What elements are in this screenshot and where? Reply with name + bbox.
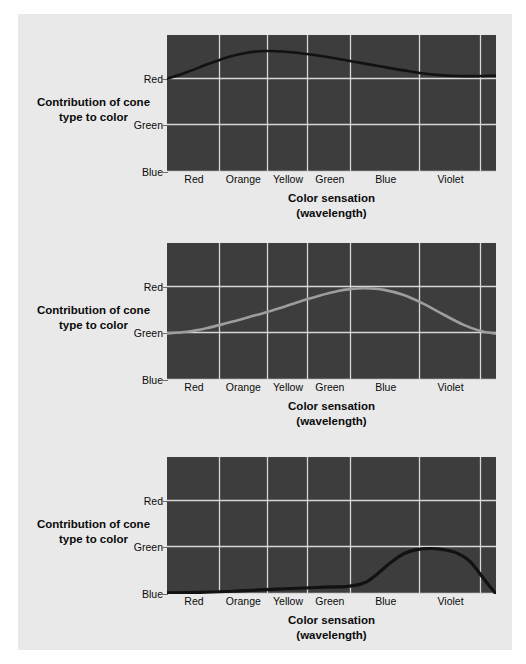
figure-panel: Contribution of cone type to color Red G… — [18, 14, 512, 650]
x-axis-title-line2: (wavelength) — [167, 414, 496, 429]
x-axis-title-line1: Color sensation — [167, 191, 496, 206]
x-axis-tick-labels: RedOrangeYellowGreenBlueViolet — [167, 382, 496, 396]
x-axis-title: Color sensation (wavelength) — [167, 191, 496, 221]
y-tick-label-blue: Blue — [142, 589, 163, 600]
x-tick-label-green: Green — [315, 596, 344, 607]
data-curve — [167, 549, 496, 594]
chart-panel-green-cone: Contribution of cone type to color Red G… — [18, 229, 512, 435]
x-tick-label-green: Green — [315, 382, 344, 393]
x-tick-label-violet: Violet — [438, 596, 464, 607]
y-tick-label-green: Green — [134, 542, 163, 553]
x-axis-title: Color sensation (wavelength) — [167, 399, 496, 429]
x-tick-label-orange: Orange — [226, 596, 261, 607]
y-tick-label-blue: Blue — [142, 375, 163, 386]
x-axis-title-line2: (wavelength) — [167, 206, 496, 221]
x-tick-label-red: Red — [184, 174, 203, 185]
x-axis-tick-labels: RedOrangeYellowGreenBlueViolet — [167, 596, 496, 610]
x-tick-label-blue: Blue — [375, 382, 396, 393]
x-tick-label-orange: Orange — [226, 382, 261, 393]
chart-panel-blue-cone: Contribution of cone type to color Red G… — [18, 443, 512, 649]
x-tick-label-violet: Violet — [438, 382, 464, 393]
data-curve — [167, 288, 496, 334]
x-axis-title-line2: (wavelength) — [167, 628, 496, 643]
x-axis-tick-labels: RedOrangeYellowGreenBlueViolet — [167, 174, 496, 188]
x-tick-label-orange: Orange — [226, 174, 261, 185]
x-tick-label-blue: Blue — [375, 174, 396, 185]
y-axis-title-line1: Contribution of — [37, 96, 120, 108]
x-axis-title-line1: Color sensation — [167, 399, 496, 414]
x-tick-label-violet: Violet — [438, 174, 464, 185]
plot-area — [167, 457, 496, 594]
y-tick-label-blue: Blue — [142, 167, 163, 178]
x-axis-title-line1: Color sensation — [167, 613, 496, 628]
plot-area — [167, 35, 496, 172]
x-tick-label-red: Red — [184, 596, 203, 607]
x-axis-title: Color sensation (wavelength) — [167, 613, 496, 643]
y-tick-label-green: Green — [134, 328, 163, 339]
x-tick-label-yellow: Yellow — [273, 596, 303, 607]
plot-area — [167, 243, 496, 380]
chart-panel-red-cone: Contribution of cone type to color Red G… — [18, 21, 512, 227]
data-curve — [167, 51, 496, 79]
y-axis-title-line1: Contribution of — [37, 518, 120, 530]
y-tick-label-green: Green — [134, 120, 163, 131]
x-tick-label-yellow: Yellow — [273, 174, 303, 185]
x-tick-label-yellow: Yellow — [273, 382, 303, 393]
x-tick-label-blue: Blue — [375, 596, 396, 607]
x-tick-label-green: Green — [315, 174, 344, 185]
y-axis-title-line1: Contribution of — [37, 304, 120, 316]
x-tick-label-red: Red — [184, 382, 203, 393]
